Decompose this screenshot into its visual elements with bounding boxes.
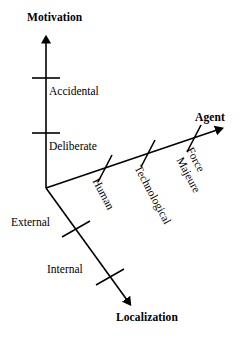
tick-label-deliberate: Deliberate xyxy=(49,140,97,152)
axis-title-motivation: Motivation xyxy=(27,11,82,23)
axis-title-localization: Localization xyxy=(116,311,178,323)
tick-label-accidental: Accidental xyxy=(49,85,99,97)
motivation-axis xyxy=(32,42,60,188)
tick-label-internal: Internal xyxy=(47,263,83,275)
tick-label-external: External xyxy=(11,216,50,228)
localization-tick-external xyxy=(62,221,90,237)
localization-tick-internal xyxy=(96,269,124,285)
axes-diagram: Motivation Agent Localization Accidental… xyxy=(0,0,242,337)
axis-title-agent: Agent xyxy=(195,111,225,123)
